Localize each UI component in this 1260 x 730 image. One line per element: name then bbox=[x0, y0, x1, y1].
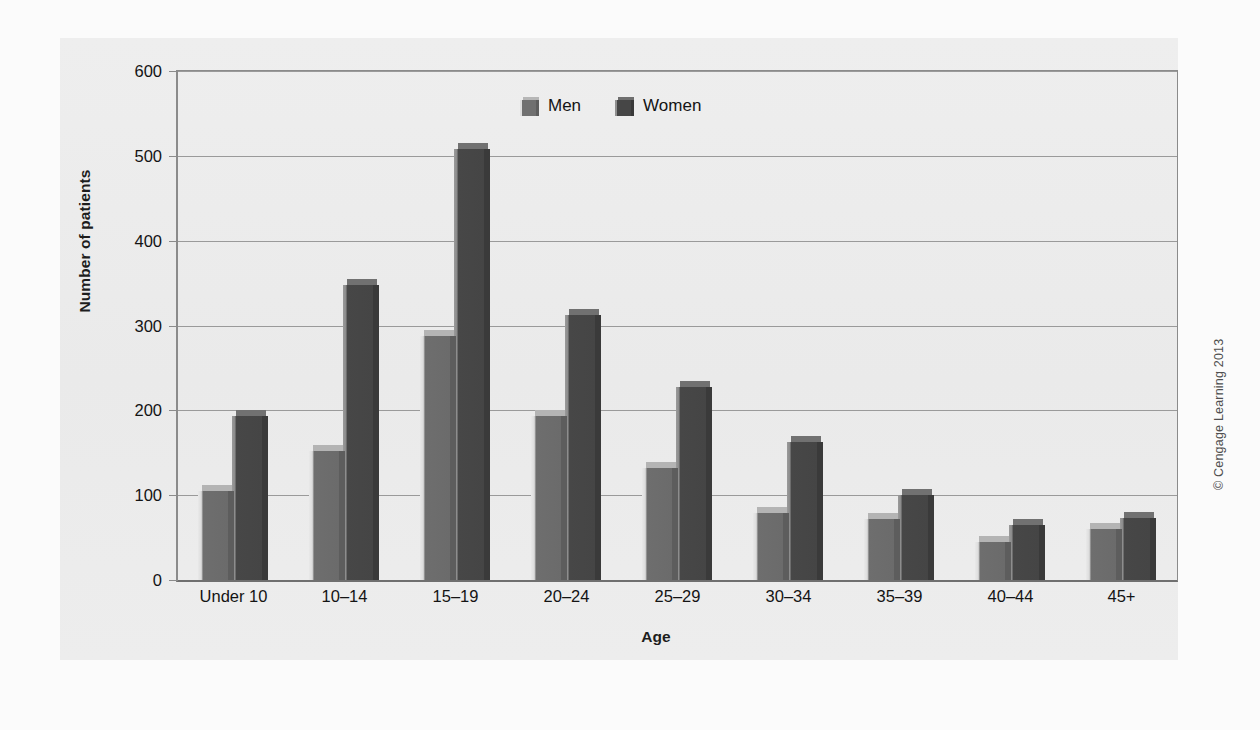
y-axis-tick-mark bbox=[169, 495, 178, 496]
bar-group bbox=[511, 71, 622, 580]
bar-group bbox=[289, 71, 400, 580]
bar-group bbox=[622, 71, 733, 580]
bar-men[interactable] bbox=[1086, 529, 1116, 580]
y-axis-tick-mark bbox=[169, 580, 178, 581]
plot-area: 0100200300400500600 Under 1010–1415–1920… bbox=[176, 70, 1178, 582]
y-axis-tick-mark bbox=[169, 71, 178, 72]
copyright-notice: © Cengage Learning 2013 bbox=[1212, 339, 1226, 490]
bar-group bbox=[400, 71, 511, 580]
x-axis-tick-label: 45+ bbox=[1066, 587, 1177, 606]
y-axis-tick-label: 100 bbox=[90, 486, 162, 505]
y-axis-tick-label: 200 bbox=[90, 401, 162, 420]
bar-men[interactable] bbox=[975, 542, 1005, 580]
bar-women[interactable] bbox=[676, 387, 706, 580]
y-axis-tick-label: 0 bbox=[90, 571, 162, 590]
bar-men[interactable] bbox=[198, 491, 228, 580]
bar-men[interactable] bbox=[309, 451, 339, 580]
y-axis-tick-mark bbox=[169, 156, 178, 157]
bar-women[interactable] bbox=[1009, 525, 1039, 580]
bar-women[interactable] bbox=[232, 416, 262, 580]
bar-group bbox=[955, 71, 1066, 580]
x-axis-tick-label: 35–39 bbox=[844, 587, 955, 606]
bar-women[interactable] bbox=[454, 149, 484, 580]
bar-group bbox=[178, 71, 289, 580]
bar-group bbox=[844, 71, 955, 580]
x-axis-tick-label: 15–19 bbox=[400, 587, 511, 606]
y-axis-tick-label: 500 bbox=[90, 146, 162, 165]
bar-men[interactable] bbox=[753, 513, 783, 580]
y-axis-tick-mark bbox=[169, 241, 178, 242]
bar-women[interactable] bbox=[343, 285, 373, 580]
x-axis-title: Age bbox=[0, 628, 1260, 646]
y-axis-tick-label: 600 bbox=[90, 62, 162, 81]
bar-men[interactable] bbox=[420, 336, 450, 580]
y-axis-tick-mark bbox=[169, 326, 178, 327]
x-axis-tick-label: 10–14 bbox=[289, 587, 400, 606]
x-axis-title-text: Age bbox=[641, 628, 670, 645]
bar-group bbox=[733, 71, 844, 580]
bar-women[interactable] bbox=[565, 315, 595, 580]
figure-container: Number of patients Age Men Women 0100200… bbox=[0, 0, 1260, 730]
bar-men[interactable] bbox=[642, 468, 672, 580]
bar-women[interactable] bbox=[787, 442, 817, 580]
bar-men[interactable] bbox=[864, 519, 894, 580]
bar-group bbox=[1066, 71, 1177, 580]
x-axis-tick-label: Under 10 bbox=[178, 587, 289, 606]
x-axis-tick-label: 20–24 bbox=[511, 587, 622, 606]
bar-women[interactable] bbox=[1120, 518, 1150, 580]
x-axis-tick-label: 25–29 bbox=[622, 587, 733, 606]
y-axis-tick-mark bbox=[169, 410, 178, 411]
bar-women[interactable] bbox=[898, 495, 928, 580]
bar-series-layer bbox=[178, 71, 1177, 580]
x-axis-tick-label: 40–44 bbox=[955, 587, 1066, 606]
y-axis-tick-label: 300 bbox=[90, 316, 162, 335]
y-axis-tick-label: 400 bbox=[90, 231, 162, 250]
bar-men[interactable] bbox=[531, 416, 561, 580]
x-axis-tick-label: 30–34 bbox=[733, 587, 844, 606]
